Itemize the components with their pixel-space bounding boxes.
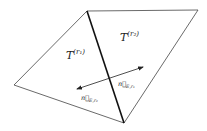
diagram-canvas: T(r₁) T(r₂) n⃗E,r₁ n⃗E,r₂ <box>0 0 207 131</box>
shared-edge <box>87 11 124 123</box>
normal-arrow-r2 <box>77 78 110 89</box>
normal-arrow-r1 <box>110 67 143 78</box>
triangle-r1-outline <box>14 11 124 123</box>
label-normal-r2: n⃗E,r₂ <box>81 94 98 103</box>
label-normal-r1: n⃗E,r₁ <box>118 80 135 89</box>
triangle-r2-outline <box>87 10 198 123</box>
label-triangle-r2: T(r₂) <box>120 30 139 44</box>
label-triangle-r1: T(r₁) <box>66 48 85 62</box>
